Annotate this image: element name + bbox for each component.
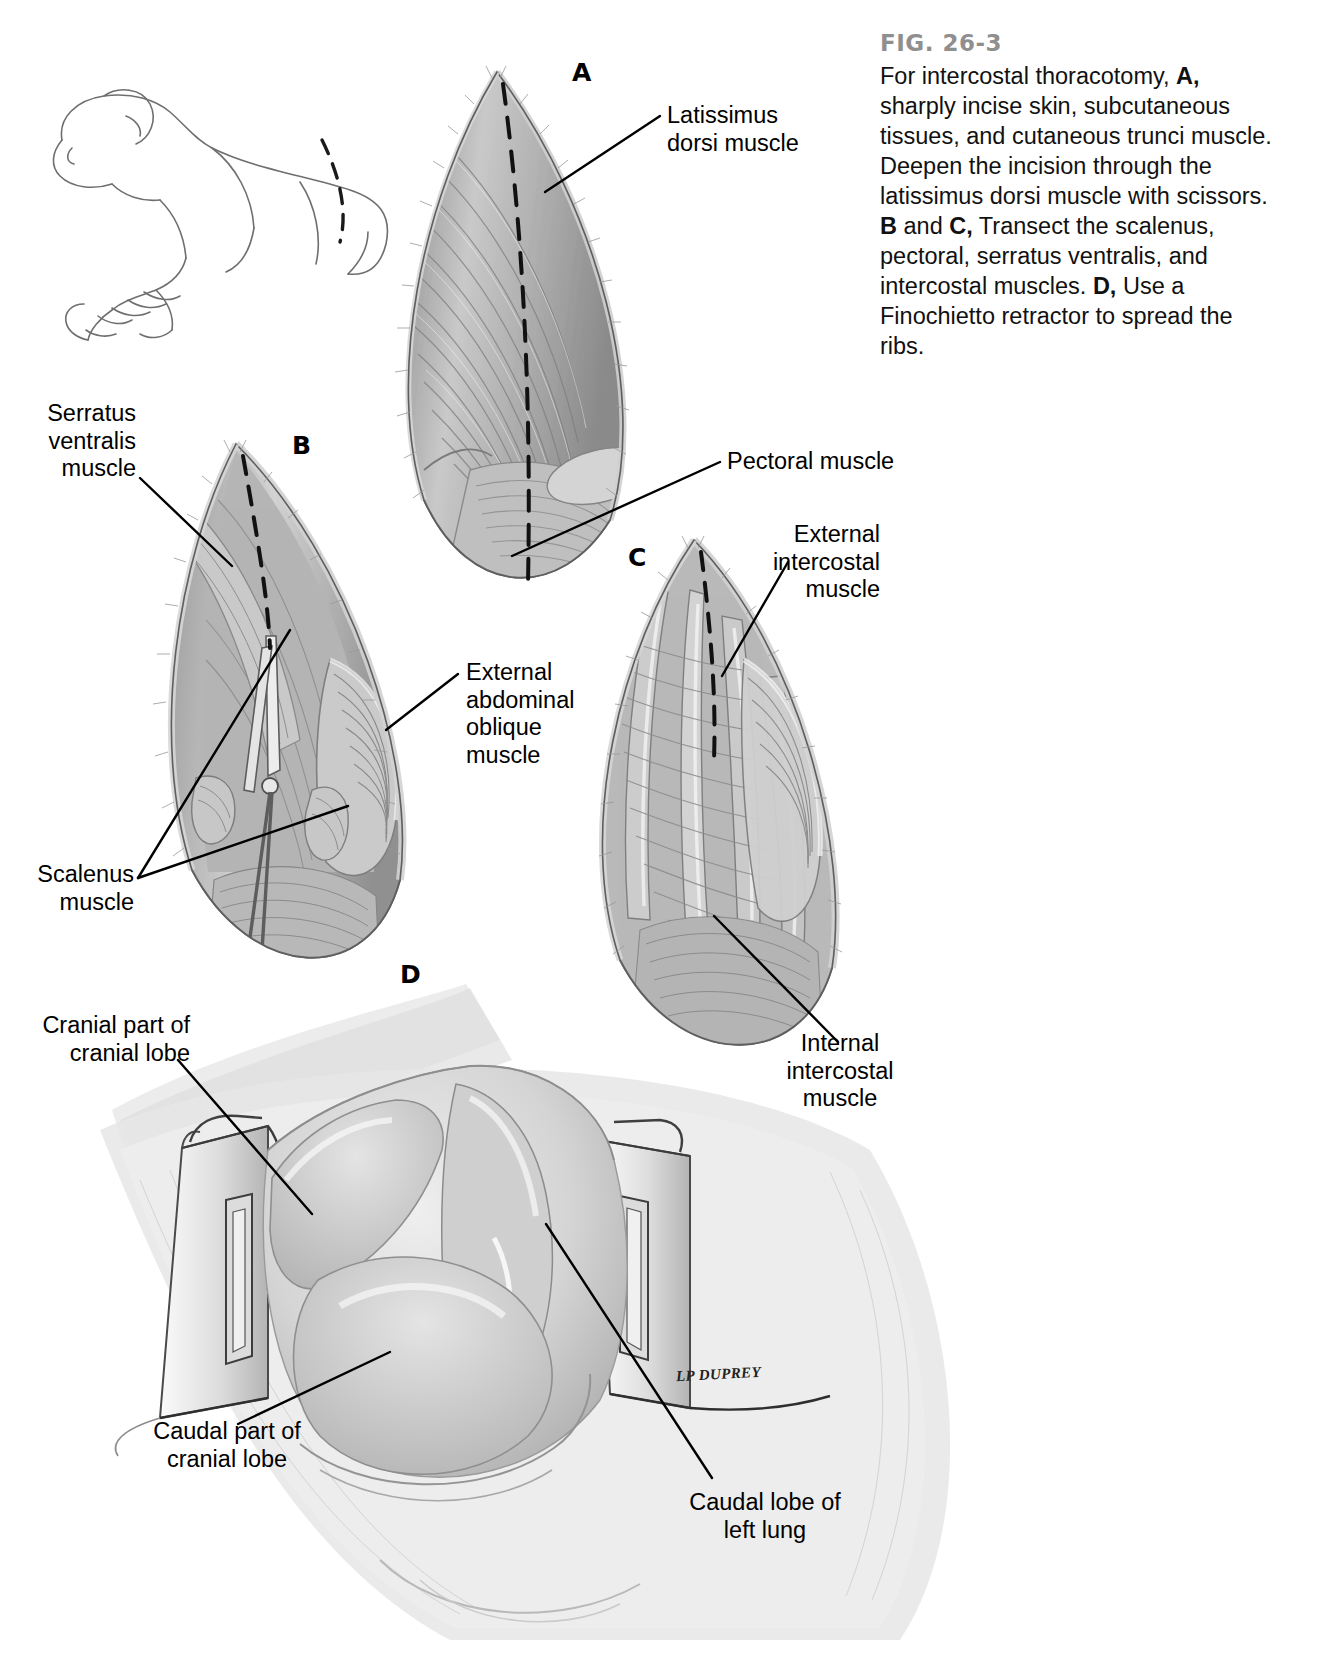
dog-incision-dashed-line xyxy=(322,140,343,242)
panel-letter-b: B xyxy=(292,431,311,460)
leader-caudal-part-cranial-lobe xyxy=(238,1352,390,1424)
label-latissimus-dorsi: Latissimus dorsi muscle xyxy=(667,102,799,157)
surgical-scissors xyxy=(230,636,280,1020)
panel-a-incision-line xyxy=(503,84,529,584)
panel-c-artwork xyxy=(599,536,842,1070)
leader-serratus-ventralis xyxy=(140,478,232,566)
caudal-lobe-left-lung-shape xyxy=(442,1084,553,1398)
finochietto-retractor xyxy=(160,1116,690,1418)
page-top-partial-text xyxy=(330,0,890,14)
label-scalenus-muscle: Scalenus muscle xyxy=(0,861,134,916)
label-caudal-part-cranial-lobe: Caudal part of cranial lobe xyxy=(102,1418,352,1473)
panel-letter-a: A xyxy=(572,58,591,87)
label-external-abdominal-oblique: External abdominal oblique muscle xyxy=(466,659,574,770)
panel-c-intercostal-slabs xyxy=(625,588,804,948)
leader-latissimus-dorsi xyxy=(545,116,660,192)
cranial-part-cranial-lobe-shape xyxy=(270,1100,443,1289)
figure-page: FIG. 26-3 For intercostal thoracotomy, A… xyxy=(0,0,1334,1663)
figure-caption: FIG. 26-3 For intercostal thoracotomy, A… xyxy=(880,30,1272,362)
dog-body-sketch xyxy=(53,90,387,340)
figure-number: FIG. 26-3 xyxy=(880,30,1272,56)
panel-a-artwork xyxy=(395,66,659,604)
figure-caption-text: For intercostal thoracotomy, A, sharply … xyxy=(880,62,1272,362)
leader-internal-intercostal xyxy=(714,916,838,1042)
leader-lines xyxy=(138,116,838,1478)
panel-b-incision-line xyxy=(243,456,270,648)
artist-credit: LP DUPREY xyxy=(676,1364,762,1385)
label-caudal-lobe-left-lung: Caudal lobe of left lung xyxy=(640,1489,890,1544)
label-external-intercostal: External intercostal muscle xyxy=(680,521,880,604)
label-serratus-ventralis: Serratus ventralis muscle xyxy=(0,400,136,483)
leader-caudal-lobe-left-lung xyxy=(546,1224,712,1478)
panel-a-muscle-fibers xyxy=(408,72,658,604)
panel-letter-d: D xyxy=(400,960,421,989)
leader-scalenus-2 xyxy=(138,806,348,878)
panel-b-artwork xyxy=(153,440,402,1020)
panel-letter-c: C xyxy=(628,543,646,572)
label-cranial-part-cranial-lobe: Cranial part of cranial lobe xyxy=(0,1012,190,1067)
leader-external-abdominal-oblique xyxy=(386,674,458,730)
label-pectoral-muscle: Pectoral muscle xyxy=(727,448,894,476)
panel-b-scalenus-stumps xyxy=(192,776,349,860)
label-internal-intercostal: Internal intercostal muscle xyxy=(740,1030,940,1113)
leader-cranial-part-cranial-lobe xyxy=(178,1060,312,1214)
leader-scalenus-1 xyxy=(138,630,290,878)
